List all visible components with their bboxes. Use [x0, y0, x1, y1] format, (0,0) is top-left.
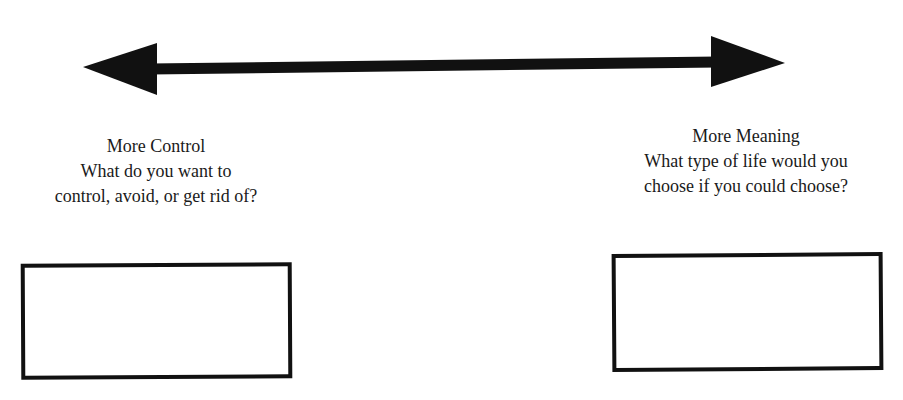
right-pole-question-line1: What type of life would you: [615, 149, 877, 174]
right-pole-question-line2: choose if you could choose?: [615, 174, 877, 199]
right-pole-title: More Meaning: [615, 124, 877, 149]
left-pole-label: More Control What do you want to control…: [26, 134, 286, 209]
arrow-right-head-icon: [711, 36, 785, 87]
control-answer-box[interactable]: [21, 262, 293, 379]
arrow-left-head-icon: [83, 43, 157, 95]
left-pole-title: More Control: [26, 134, 286, 159]
meaning-answer-box[interactable]: [612, 252, 884, 372]
left-pole-question-line1: What do you want to: [26, 159, 286, 184]
arrow-shaft: [150, 57, 718, 75]
control-meaning-diagram: More Control What do you want to control…: [0, 0, 903, 400]
left-pole-question-line2: control, avoid, or get rid of?: [26, 184, 286, 209]
right-pole-label: More Meaning What type of life would you…: [615, 124, 877, 199]
